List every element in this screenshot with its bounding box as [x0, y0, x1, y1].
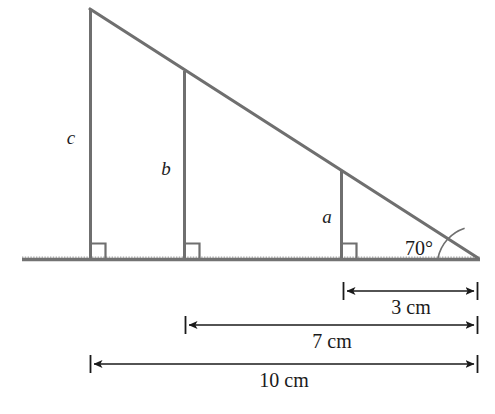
label-height-c: c: [67, 127, 76, 148]
right-angle-marker-b: [185, 244, 200, 259]
label-height-a: a: [322, 206, 332, 227]
dimension-10cm-label: 10 cm: [259, 369, 309, 391]
dimension-3cm-group: 3 cm: [344, 282, 478, 318]
label-height-b: b: [161, 158, 171, 179]
dimension-7cm-group: 7 cm: [186, 316, 478, 352]
dimension-10cm-group: 10 cm: [91, 355, 478, 391]
angle-arc-70: [438, 228, 465, 258]
label-angle-70: 70°: [405, 237, 433, 259]
right-angle-marker-a: [342, 244, 357, 259]
hypotenuse: [90, 9, 478, 258]
triangle-diagram-svg: c b a 70° 3 cm 7 cm 10 cm: [0, 0, 495, 414]
dimension-7cm-label: 7 cm: [312, 330, 352, 352]
dimension-3cm-label: 3 cm: [391, 296, 431, 318]
geometry-figure: c b a 70° 3 cm 7 cm 10 cm: [0, 0, 495, 414]
right-angle-marker-c: [91, 244, 106, 259]
